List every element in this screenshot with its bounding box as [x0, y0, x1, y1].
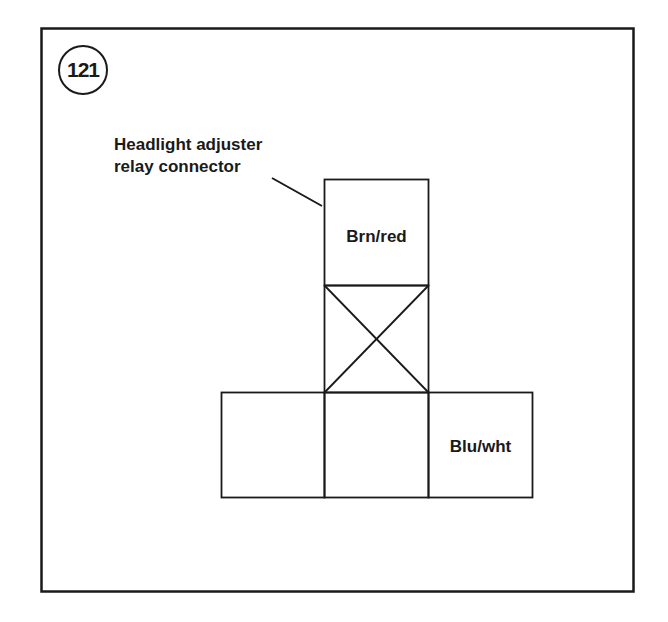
terminal-top-wire-color: Brn/red [324, 227, 429, 247]
terminal-bottom-center [325, 393, 429, 498]
callout-leader-line [272, 178, 322, 206]
connector-diagram [0, 0, 668, 622]
terminal-bottom-left [222, 393, 325, 498]
callout-line-2: relay connector [114, 157, 241, 177]
figure-frame [42, 29, 634, 592]
figure-number: 121 [59, 58, 107, 82]
terminal-bottom-right-wire-color: Blu/wht [428, 437, 533, 457]
callout-line-1: Headlight adjuster [114, 135, 262, 155]
